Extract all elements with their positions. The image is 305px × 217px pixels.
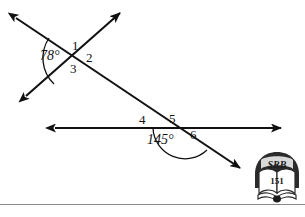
angle-number-4: 4	[139, 113, 146, 126]
angle-number-5: 5	[169, 112, 176, 125]
angle-label-145: 145°	[147, 133, 174, 147]
angle-label-78: 78°	[40, 49, 60, 63]
geometry-figure: 78° 145° 1 2 3 4 5 6 SRB 151	[0, 0, 305, 217]
logo-srb-text: SRB	[268, 159, 287, 170]
angle-number-2: 2	[86, 51, 93, 64]
srb-book-logo: SRB 151	[252, 150, 302, 205]
logo-page-number: 151	[270, 176, 284, 186]
angle-number-3: 3	[70, 62, 77, 75]
logo-graphic: SRB 151	[252, 150, 302, 205]
page-bottom-rule	[0, 204, 305, 205]
angle-number-6: 6	[190, 128, 197, 141]
angle-number-1: 1	[72, 39, 79, 52]
logo-book-spine-dot	[273, 196, 281, 203]
transversal-line	[16, 18, 240, 168]
